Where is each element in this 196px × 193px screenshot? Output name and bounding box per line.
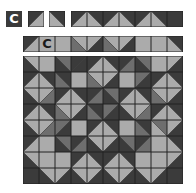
- strip-tile: [23, 36, 39, 52]
- strip-tile: [135, 36, 151, 52]
- grid-tile: [55, 152, 71, 168]
- grid-tile: [151, 72, 167, 88]
- strip-tile: [135, 11, 151, 27]
- grid-tile: [135, 56, 151, 72]
- grid-tile: [103, 104, 119, 120]
- grid-tile: [87, 152, 103, 168]
- grid-tile: [39, 168, 55, 184]
- cell-letter-c: C: [39, 36, 55, 52]
- grid-tile: [71, 56, 87, 72]
- single-tile: [49, 11, 65, 27]
- grid-tile: [71, 104, 87, 120]
- grid-tile: [103, 136, 119, 152]
- grid-tile: [167, 120, 183, 136]
- grid-tile: [71, 168, 87, 184]
- grid-tile: [167, 136, 183, 152]
- grid-tile: [87, 104, 103, 120]
- grid-tile: [71, 136, 87, 152]
- strip-tile: [87, 11, 103, 27]
- grid-tile: [23, 104, 39, 120]
- grid-tile: [103, 120, 119, 136]
- grid-tile: [55, 88, 71, 104]
- grid-tile: [39, 152, 55, 168]
- grid-tile: [135, 88, 151, 104]
- grid-tile: [151, 136, 167, 152]
- grid-tile: [87, 120, 103, 136]
- grid-tile: [39, 56, 55, 72]
- strip-tile: [151, 11, 167, 27]
- strip-tile: [151, 36, 167, 52]
- grid-tile: [119, 56, 135, 72]
- grid-tile: [119, 104, 135, 120]
- strip-tile: [119, 11, 135, 27]
- grid-tile: [55, 136, 71, 152]
- grid-tile: [55, 56, 71, 72]
- grid-tile: [151, 152, 167, 168]
- grid-tile: [167, 104, 183, 120]
- strip-tile: [167, 36, 183, 52]
- grid-tile: [167, 72, 183, 88]
- grid-tile: [119, 72, 135, 88]
- grid-tile: [23, 56, 39, 72]
- grid-tile: [87, 56, 103, 72]
- grid-tile: [135, 120, 151, 136]
- strip-tile: C: [39, 36, 55, 52]
- grid-tile: [103, 168, 119, 184]
- strip-tile: [103, 11, 119, 27]
- grid-tile: [39, 88, 55, 104]
- strip-tile: [71, 36, 87, 52]
- grid-tile: [151, 168, 167, 184]
- grid-tile: [151, 120, 167, 136]
- row1-label-c: C: [6, 11, 22, 27]
- grid-tile: [23, 152, 39, 168]
- grid-tile: [87, 72, 103, 88]
- grid-tile: [55, 72, 71, 88]
- grid-tile: [135, 136, 151, 152]
- grid-tile: [23, 88, 39, 104]
- grid-tile: [39, 120, 55, 136]
- grid-tile: [71, 88, 87, 104]
- grid-tile: [71, 152, 87, 168]
- grid-tile: [103, 152, 119, 168]
- grid-tile: [103, 56, 119, 72]
- grid-tile: [55, 120, 71, 136]
- grid-tile: [119, 168, 135, 184]
- strip-tile: [103, 36, 119, 52]
- grid-tile: [55, 168, 71, 184]
- strip-tile: [87, 36, 103, 52]
- grid-tile: [167, 88, 183, 104]
- grid-tile: [135, 152, 151, 168]
- grid-tile: [23, 72, 39, 88]
- strip-tile: [119, 36, 135, 52]
- grid-tile: [151, 56, 167, 72]
- grid-tile: [71, 72, 87, 88]
- grid-tile: [167, 152, 183, 168]
- grid-tile: [71, 120, 87, 136]
- grid-tile: [23, 136, 39, 152]
- strip-tile: [55, 36, 71, 52]
- grid-tile: [151, 88, 167, 104]
- grid-tile: [103, 88, 119, 104]
- grid-tile: [87, 136, 103, 152]
- grid-tile: [87, 168, 103, 184]
- grid-tile: [55, 104, 71, 120]
- grid-tile: [119, 88, 135, 104]
- single-tile: [28, 11, 44, 27]
- strip-tile: [167, 11, 183, 27]
- grid-tile: [23, 120, 39, 136]
- grid-tile: [135, 104, 151, 120]
- grid-tile: [151, 104, 167, 120]
- grid-tile: [23, 168, 39, 184]
- grid-tile: [39, 136, 55, 152]
- grid-tile: [119, 152, 135, 168]
- grid-tile: [39, 104, 55, 120]
- grid-tile: [119, 120, 135, 136]
- grid-tile: [167, 56, 183, 72]
- strip-tile: [71, 11, 87, 27]
- grid-tile: [39, 72, 55, 88]
- grid-tile: [87, 88, 103, 104]
- grid-tile: [135, 168, 151, 184]
- grid-tile: [167, 168, 183, 184]
- grid-tile: [135, 72, 151, 88]
- grid-tile: [103, 72, 119, 88]
